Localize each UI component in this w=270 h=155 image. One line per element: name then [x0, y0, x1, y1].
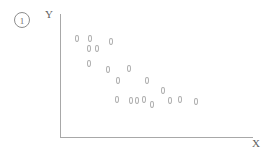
data-point	[115, 96, 119, 103]
data-point	[150, 101, 154, 108]
data-point	[145, 77, 149, 84]
data-point	[116, 77, 120, 84]
data-point	[129, 97, 133, 104]
y-axis-line	[60, 14, 61, 138]
data-point	[168, 97, 172, 104]
data-point	[88, 35, 92, 42]
data-point	[161, 87, 165, 94]
data-point	[75, 35, 79, 42]
x-axis-label: X	[252, 137, 260, 149]
data-point	[194, 98, 198, 105]
y-axis-label: Y	[45, 8, 53, 20]
data-point	[135, 97, 139, 104]
data-point	[106, 66, 110, 73]
data-point	[142, 96, 146, 103]
data-point	[127, 65, 131, 72]
data-point	[109, 38, 113, 45]
data-point	[178, 96, 182, 103]
data-point	[87, 45, 91, 52]
plot-area: Y X	[0, 0, 270, 155]
data-point	[87, 60, 91, 67]
data-point	[95, 45, 99, 52]
scatter-plot-figure: 1 Y X	[0, 0, 270, 155]
x-axis-line	[60, 137, 253, 138]
